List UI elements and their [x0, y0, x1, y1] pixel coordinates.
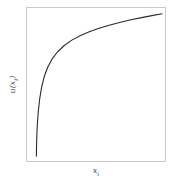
- utility-curve-line: [36, 14, 162, 156]
- y-axis-label-tail: ): [8, 76, 17, 79]
- utility-function-chart: u(xi) xi: [0, 0, 177, 188]
- x-axis-label-subscript: i: [97, 170, 99, 177]
- y-axis-label-base: u(x: [8, 81, 17, 94]
- y-axis-label: u(xi): [6, 7, 20, 162]
- curve-svg: [27, 8, 165, 161]
- x-axis-label: xi: [26, 166, 166, 177]
- plot-frame: [26, 7, 166, 162]
